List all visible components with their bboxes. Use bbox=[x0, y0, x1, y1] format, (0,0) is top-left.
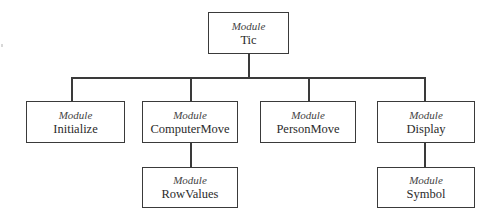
connector-to-personmove bbox=[308, 77, 310, 101]
module-kind-label: Module bbox=[59, 108, 93, 122]
module-kind-label: Module bbox=[409, 108, 443, 122]
connector-computermove-to-rowvalues bbox=[190, 142, 192, 167]
scan-artifact bbox=[1, 44, 3, 47]
module-box-tic: Module Tic bbox=[208, 12, 289, 54]
module-name-label: Initialize bbox=[53, 122, 97, 137]
connector-to-display bbox=[424, 77, 426, 101]
module-kind-label: Module bbox=[409, 173, 443, 187]
connector-root-down bbox=[248, 53, 250, 78]
module-name-label: ComputerMove bbox=[150, 122, 229, 137]
module-box-symbol: Module Symbol bbox=[377, 167, 475, 208]
connector-display-to-symbol bbox=[424, 142, 426, 167]
module-kind-label: Module bbox=[173, 173, 207, 187]
module-box-display: Module Display bbox=[377, 101, 475, 143]
module-name-label: RowValues bbox=[162, 187, 219, 202]
module-name-label: Tic bbox=[240, 33, 256, 48]
connector-to-initialize bbox=[71, 77, 73, 101]
module-kind-label: Module bbox=[291, 108, 325, 122]
module-box-rowvalues: Module RowValues bbox=[142, 167, 238, 208]
module-box-initialize: Module Initialize bbox=[26, 101, 125, 143]
module-name-label: PersonMove bbox=[276, 122, 339, 137]
connector-horizontal-bus bbox=[71, 77, 426, 79]
module-kind-label: Module bbox=[232, 19, 266, 33]
module-name-label: Symbol bbox=[407, 187, 446, 202]
module-kind-label: Module bbox=[173, 108, 207, 122]
module-hierarchy-diagram: Module Tic Module Initialize Module Comp… bbox=[0, 0, 500, 220]
module-box-computermove: Module ComputerMove bbox=[142, 101, 238, 143]
connector-to-computermove bbox=[190, 77, 192, 101]
module-name-label: Display bbox=[407, 122, 446, 137]
module-box-personmove: Module PersonMove bbox=[260, 101, 356, 143]
